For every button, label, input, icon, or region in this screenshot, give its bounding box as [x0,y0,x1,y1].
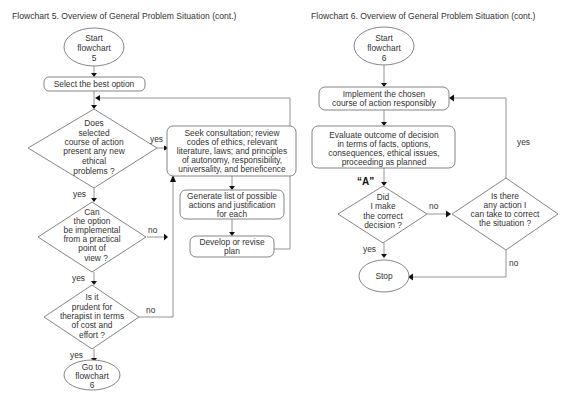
flowchart6: Start flowchart 6 Implement the chosen c… [312,27,558,292]
decision2-line: view ? [84,253,108,263]
decision2-no-label: no [148,225,158,235]
d6-1-line: I make [370,201,395,211]
decision1-line: ethical [82,156,106,166]
d6-2-no-label: no [509,258,519,268]
start6-line: 6 [382,53,387,63]
decision1-line: present any new [63,146,125,156]
develop-line: plan [224,246,240,256]
generate-line: for each [217,209,248,219]
decision3-line: of cost and [72,320,113,330]
flowchart-canvas: Start flowchart 5 Select the best option… [0,0,580,409]
decision3-yes-label: yes [70,350,83,360]
select-best-option-label: Select the best option [54,79,135,89]
start-line3: 5 [92,53,97,63]
stop-label: Stop [375,271,393,281]
d6-2-line: the situation ? [479,218,531,228]
decision2-line: point of [78,243,106,253]
decision2-yes-label: yes [72,273,85,283]
decision1-line: problems ? [73,166,115,176]
start-line2: flowchart [77,43,111,53]
decision3-no-label: no [146,305,156,315]
d6-2-yes-label: yes [517,137,530,147]
goto-line: 6 [90,380,95,390]
d6-1-line: decision ? [364,220,402,230]
start-line1: Start [85,33,103,43]
d6-1-no-label: no [429,201,439,211]
start6-line: flowchart [367,43,401,53]
decision1-down-yes-label: yes [73,189,86,199]
decision1-line: Does [84,118,104,128]
decision1-yes-label: yes [150,134,163,144]
flowchart5: Start flowchart 5 Select the best option… [28,28,296,390]
evaluate-line: proceeding as planned [342,157,427,167]
marker-a: “A” [357,176,374,187]
implement-line: course of action responsibly [332,98,437,108]
d6-1-yes-label: yes [363,244,376,254]
decision3-line: effort ? [79,330,105,340]
start6-line: Start [375,33,393,43]
consult-line: universality, and beneficence [178,164,286,174]
decision3-line: Is it [85,292,99,302]
